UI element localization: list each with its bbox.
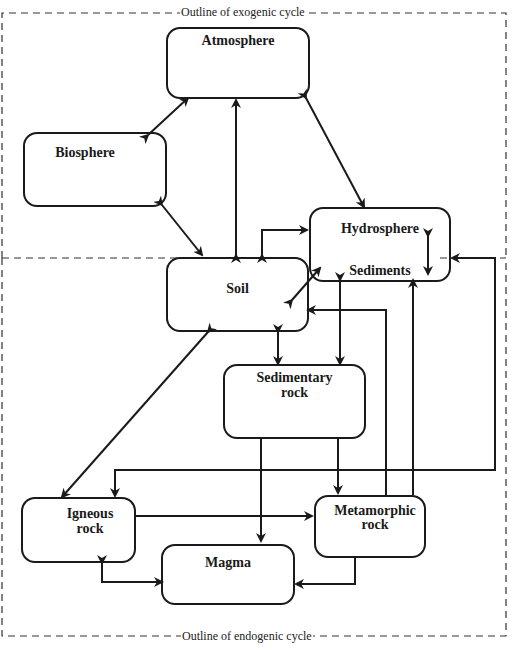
sedimentary-rock-label-1: Sedimentary bbox=[223, 370, 366, 386]
sediments-label: Sediments bbox=[330, 263, 430, 279]
magma-node[interactable] bbox=[161, 544, 295, 605]
sedimentary-rock-label-2: rock bbox=[223, 385, 366, 401]
soil-label: Soil bbox=[166, 281, 309, 297]
metamorphic-rock-label-2: rock bbox=[325, 517, 425, 533]
biosphere-node[interactable] bbox=[23, 132, 167, 207]
exogenic-outline-label: Outline of exogenic cycle bbox=[180, 5, 306, 19]
hydrosphere-label: Hydrosphere bbox=[330, 221, 430, 237]
magma-label: Magma bbox=[161, 555, 295, 571]
biosphere-label: Biosphere bbox=[30, 145, 140, 161]
endogenic-outline-label: Outline of endogenic cycle bbox=[181, 629, 313, 643]
atmosphere-label: Atmosphere bbox=[166, 33, 310, 49]
igneous-rock-label-2: rock bbox=[55, 521, 125, 537]
igneous-rock-label-1: Igneous bbox=[55, 506, 125, 522]
